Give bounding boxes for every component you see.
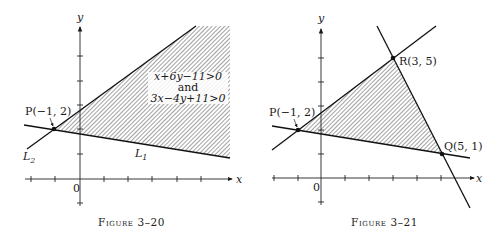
p-pointer-arrow bbox=[294, 119, 297, 127]
y-axis-label: y bbox=[76, 11, 84, 24]
x-axis-label: x bbox=[476, 172, 483, 185]
line-l2-label: L2 bbox=[22, 150, 35, 165]
point-p-label: P(−1, 2) bbox=[269, 106, 315, 119]
y-axis-label: y bbox=[317, 12, 325, 25]
p-pointer-arrow bbox=[50, 118, 53, 126]
point-p bbox=[296, 128, 301, 133]
point-r bbox=[391, 56, 396, 61]
figure-3-21: y x 0 P(−1, 2) R(3, 5) Q(5, 1) bbox=[269, 12, 483, 208]
figure-3-20: y x 0 P(−1, 2) L1 L2 x+6y−11>0 and 3x−4y… bbox=[22, 11, 243, 206]
origin-label: 0 bbox=[313, 181, 320, 194]
point-p-label: P(−1, 2) bbox=[25, 105, 71, 118]
point-q-label: Q(5, 1) bbox=[444, 140, 483, 153]
origin-label: 0 bbox=[73, 182, 80, 195]
point-p bbox=[52, 127, 57, 132]
x-axis-label: x bbox=[236, 173, 243, 186]
line-l1-label: L1 bbox=[134, 147, 147, 162]
caption-figure-3-21: Figure 3–21 bbox=[351, 216, 418, 228]
point-r-label: R(3, 5) bbox=[399, 55, 437, 68]
region-condition-2: 3x−4y+11>0 bbox=[150, 92, 225, 105]
figures-canvas: y x 0 P(−1, 2) L1 L2 x+6y−11>0 and 3x−4y… bbox=[0, 0, 499, 243]
caption-figure-3-20: Figure 3–20 bbox=[98, 216, 165, 228]
